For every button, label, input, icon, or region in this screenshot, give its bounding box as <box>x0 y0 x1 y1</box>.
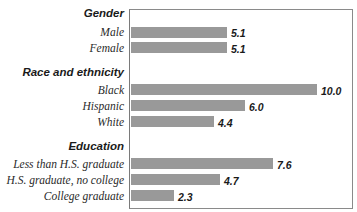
row-label-less-hs: Less than H.S. graduate <box>13 157 124 171</box>
value-label-less-hs: 7.6 <box>277 159 292 171</box>
group-title-race: Race and ethnicity <box>22 65 124 79</box>
bar-male <box>131 27 227 38</box>
bar-less-hs <box>131 158 273 169</box>
bar-female <box>131 42 227 53</box>
row-label-hs-no-college: H.S. graduate, no college <box>6 173 124 187</box>
row-label-black: Black <box>98 83 124 97</box>
value-label-female: 5.1 <box>231 43 246 55</box>
group-title-education: Education <box>68 139 124 153</box>
row-label-college: College graduate <box>44 189 124 203</box>
bar-hs-no-college <box>131 174 220 185</box>
row-label-male: Male <box>100 25 124 39</box>
value-label-white: 4.4 <box>218 117 233 129</box>
value-label-male: 5.1 <box>231 27 246 39</box>
value-label-college: 2.3 <box>178 191 193 203</box>
value-label-hs-no-college: 4.7 <box>224 175 239 187</box>
row-label-white: White <box>97 115 124 129</box>
bar-college <box>131 190 174 201</box>
bar-hispanic <box>131 100 245 111</box>
group-title-gender: Gender <box>84 6 124 20</box>
value-label-hispanic: 6.0 <box>249 101 264 113</box>
row-label-female: Female <box>90 41 124 55</box>
bar-white <box>131 116 214 127</box>
value-label-black: 10.0 <box>321 85 341 97</box>
row-label-hispanic: Hispanic <box>82 99 124 113</box>
bar-black <box>131 84 317 95</box>
